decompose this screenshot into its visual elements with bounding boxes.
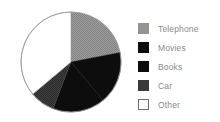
pie-plot-area [0, 0, 136, 122]
legend-item-telephone[interactable]: Telephone [138, 20, 220, 37]
legend-swatch-books [138, 61, 149, 72]
legend-label-other: Other [158, 100, 180, 110]
legend-swatch-car [138, 80, 149, 91]
pie-slices-group [21, 12, 121, 112]
legend-label-books: Books [158, 62, 182, 72]
legend-label-car: Car [158, 81, 172, 91]
legend-swatch-other [138, 99, 149, 110]
legend-swatch-telephone [138, 23, 149, 34]
legend-item-car[interactable]: Car [138, 77, 220, 94]
legend-label-movies: Movies [158, 43, 186, 53]
pie-chart-figure: Telephone Movies Books Car Other [0, 0, 220, 122]
chart-legend: Telephone Movies Books Car Other [138, 20, 220, 118]
legend-label-telephone: Telephone [158, 24, 199, 34]
pie-svg [0, 0, 136, 122]
legend-item-movies[interactable]: Movies [138, 39, 220, 56]
legend-item-other[interactable]: Other [138, 96, 220, 113]
legend-item-books[interactable]: Books [138, 58, 220, 75]
legend-swatch-movies [138, 42, 149, 53]
